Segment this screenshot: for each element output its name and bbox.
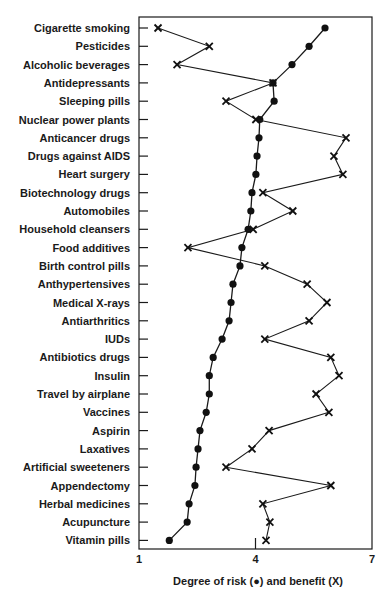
benefit-x-marker	[335, 372, 342, 379]
plot-frame	[139, 17, 372, 549]
x-tick-label: 4	[252, 553, 259, 565]
category-label: Sleeping pills	[59, 95, 130, 107]
benefit-line	[158, 28, 346, 540]
benefit-x-marker	[327, 354, 334, 361]
risk-dot-marker	[229, 281, 236, 288]
risk-dot-marker	[184, 519, 191, 526]
y-axis-category-labels: Cigarette smokingPesticidesAlcoholic bev…	[19, 22, 131, 546]
x-tick-label: 7	[369, 553, 375, 565]
risk-dot-marker	[247, 207, 254, 214]
benefit-x-marker	[304, 281, 311, 288]
category-label: Heart surgery	[58, 168, 130, 180]
risk-dot-marker	[321, 24, 328, 31]
risk-dot-marker	[236, 262, 243, 269]
category-label: Vaccines	[83, 406, 130, 418]
category-label: Pesticides	[76, 40, 130, 52]
risk-dot-marker	[206, 372, 213, 379]
risk-dot-marker	[238, 244, 245, 251]
category-label: Antibiotics drugs	[40, 351, 130, 363]
category-label: Herbal medicines	[39, 498, 130, 510]
risk-dot-marker	[255, 134, 262, 141]
risk-dot-marker	[206, 390, 213, 397]
risk-dot-marker	[194, 445, 201, 452]
category-label: Antidepressants	[44, 77, 130, 89]
category-label: Automobiles	[63, 205, 130, 217]
category-label: Anticancer drugs	[40, 132, 130, 144]
category-label: Biotechnology drugs	[20, 187, 130, 199]
category-label: Food additives	[52, 242, 130, 254]
category-label: Travel by airplane	[37, 388, 130, 400]
benefit-x-marker	[184, 244, 191, 251]
category-label: Laxatives	[80, 443, 130, 455]
category-label: Household cleansers	[19, 223, 130, 235]
risk-dot-marker	[305, 43, 312, 50]
category-label: Aspirin	[92, 425, 130, 437]
category-label: Antiarthritics	[62, 315, 130, 327]
category-label: Vitamin pills	[65, 534, 130, 546]
category-label: Artificial sweeteners	[23, 461, 130, 473]
benefit-x-marker	[325, 409, 332, 416]
benefit-x-marker	[313, 391, 320, 398]
category-label: Nuclear power plants	[19, 114, 130, 126]
category-label: Alcoholic beverages	[23, 59, 130, 71]
category-label: Cigarette smoking	[34, 22, 130, 34]
risk-dot-marker	[288, 61, 295, 68]
risk-dot-marker	[252, 171, 259, 178]
benefit-x-marker	[306, 317, 313, 324]
risk-dot-marker	[166, 537, 173, 544]
risk-dot-marker	[210, 354, 217, 361]
risk-dot-marker	[192, 464, 199, 471]
category-label: Appendectomy	[51, 480, 131, 492]
benefit-x-marker	[261, 262, 268, 269]
benefit-x-marker	[206, 43, 213, 50]
benefit-x-marker	[249, 445, 256, 452]
category-label: IUDs	[105, 333, 130, 345]
risk-dot-marker	[271, 98, 278, 105]
benefit-x-marker	[259, 500, 266, 507]
risk-dot-marker	[253, 153, 260, 160]
benefit-x-marker	[323, 299, 330, 306]
category-label: Insulin	[95, 370, 131, 382]
benefit-x-marker	[155, 25, 162, 32]
risk-dot-marker	[227, 299, 234, 306]
risk-line	[169, 28, 325, 540]
benefit-x-marker	[222, 98, 229, 105]
y-axis-ticks	[139, 28, 148, 540]
risk-dot-marker	[191, 482, 198, 489]
benefit-x-marker	[330, 153, 337, 160]
risk-dot-marker	[203, 409, 210, 416]
category-label: Medical X-rays	[53, 297, 130, 309]
risk-dot-marker	[185, 500, 192, 507]
category-label: Acupuncture	[62, 516, 130, 528]
x-axis-title: Degree of risk (●) and benefit (X)	[173, 575, 343, 587]
category-label: Anthypertensives	[38, 278, 130, 290]
benefit-x-marker	[266, 427, 273, 434]
risk-dot-marker	[196, 427, 203, 434]
benefit-series	[155, 25, 350, 544]
category-label: Drugs against AIDS	[28, 150, 130, 162]
benefit-x-marker	[261, 336, 268, 343]
risk-series	[166, 24, 329, 544]
risk-dot-marker	[225, 317, 232, 324]
category-label: Birth control pills	[39, 260, 130, 272]
risk-benefit-chart: Cigarette smokingPesticidesAlcoholic bev…	[0, 0, 389, 597]
risk-dot-marker	[248, 189, 255, 196]
x-tick-label: 1	[136, 553, 142, 565]
benefit-x-marker	[289, 208, 296, 215]
risk-dot-marker	[219, 336, 226, 343]
